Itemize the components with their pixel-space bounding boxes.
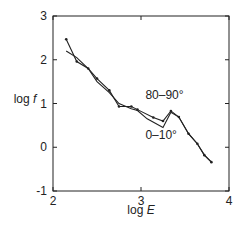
x-tick-label: 2 bbox=[50, 194, 57, 208]
y-axis-label: log f bbox=[14, 92, 38, 106]
x-tick-label: 4 bbox=[226, 194, 233, 208]
line-chart: 234-10123 80–90°0–10° log E log f bbox=[0, 0, 243, 229]
data-point bbox=[65, 38, 68, 41]
data-point bbox=[152, 116, 155, 119]
series-annotation: 80–90° bbox=[145, 88, 183, 102]
series-line bbox=[66, 51, 211, 162]
chart: 234-10123 80–90°0–10° log E log f bbox=[0, 0, 243, 229]
data-point bbox=[130, 105, 133, 108]
y-tick-label: 0 bbox=[40, 140, 47, 154]
data-point bbox=[75, 60, 78, 63]
series-annotation: 0–10° bbox=[145, 128, 177, 142]
series-line bbox=[66, 39, 211, 162]
plot-frame bbox=[53, 16, 229, 191]
series-lines bbox=[65, 38, 213, 164]
y-tick-label: 1 bbox=[40, 97, 47, 111]
data-point bbox=[118, 105, 121, 108]
data-point bbox=[162, 120, 165, 123]
y-tick-label: 2 bbox=[40, 53, 47, 67]
x-axis-label: log E bbox=[127, 203, 155, 217]
y-tick-label: 3 bbox=[40, 9, 47, 23]
y-tick-label: -1 bbox=[36, 184, 47, 198]
annotations: 80–90°0–10° bbox=[145, 88, 183, 141]
